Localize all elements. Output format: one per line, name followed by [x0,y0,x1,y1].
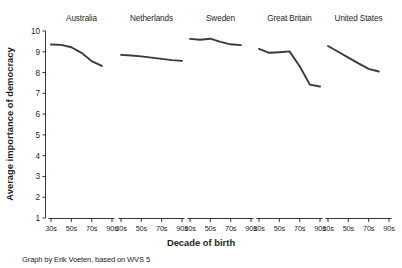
x-axis-tick-label: 70s [225,224,237,233]
y-axis-tick-label: 6 [35,110,40,119]
x-axis-tick-label: 50s [343,224,355,233]
x-axis-tick-label: 50s [136,224,148,233]
y-axis-tick-label: 2 [35,193,40,202]
y-axis-tick-label: 5 [35,131,40,140]
series-line-australia [51,45,102,66]
x-axis-tick-label: 70s [86,224,98,233]
x-axis-tick-label: 70s [294,224,306,233]
x-axis-tick-label: 50s [66,224,78,233]
x-axis-tick-label: 30s [253,224,265,233]
x-axis-tick-label: 30s [115,224,127,233]
x-axis-tick-label: 70s [156,224,168,233]
y-axis-tick-label: 9 [35,48,40,57]
x-axis-tick-label: 30s [184,224,196,233]
x-axis-tick-label: 50s [274,224,286,233]
y-axis-tick-label: 8 [35,69,40,78]
chart-caption: Graph by Erik Voeten, based on WVS 5 [22,255,150,264]
series-line-netherlands [121,55,182,61]
y-axis-title: Average importance of democracy [4,47,15,201]
x-axis-tick-label: 30s [322,224,334,233]
panel-title-united-states: United States [335,14,383,23]
small-multiples-line-chart: 12345678910Average importance of democra… [0,0,402,268]
x-axis-tick-label: 50s [205,224,217,233]
panel-title-australia: Australia [66,14,98,23]
panel-title-sweden: Sweden [206,14,236,23]
y-axis-tick-label: 10 [31,27,41,36]
series-line-united-states [328,46,379,72]
y-axis-tick-label: 3 [35,172,40,181]
x-axis-tick-label: 70s [363,224,375,233]
panel-title-netherlands: Netherlands [130,14,173,23]
y-axis-tick-label: 1 [35,214,40,223]
series-line-great-britain [259,49,320,87]
chart-figure: 12345678910Average importance of democra… [0,0,402,268]
x-axis-title: Decade of birth [167,237,236,248]
panel-title-great-britain: Great Britain [267,14,312,23]
y-axis-tick-label: 7 [35,89,40,98]
series-line-sweden [190,39,241,45]
x-axis-tick-label: 90s [383,224,395,233]
y-axis-tick-label: 4 [35,152,40,161]
x-axis-tick-label: 30s [45,224,57,233]
